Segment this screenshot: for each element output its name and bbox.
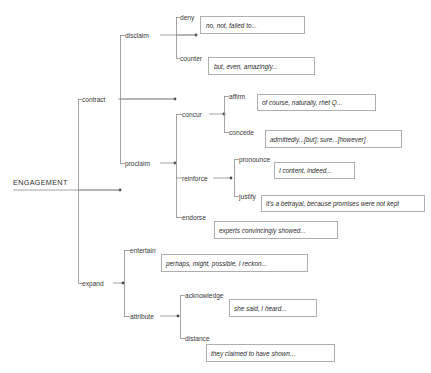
bracket-proclaim [176, 114, 182, 217]
example-box-concede: admittedly...[but]; sure...[however] [265, 130, 401, 147]
example-text-acknowledge: she said, I heard... [234, 305, 287, 312]
example-text-distance: they claimed to have shown... [211, 350, 295, 358]
example-text-concede: admittedly...[but]; sure...[however] [270, 136, 366, 144]
node-label-justify: justify [238, 193, 257, 201]
example-box-pronounce: I content, indeed... [274, 162, 354, 178]
node-label-counter: counter [180, 55, 203, 62]
example-box-deny: no, not, failed to... [200, 16, 304, 33]
node-label-entertain: entertain [130, 247, 156, 254]
example-box-entertain: perhaps, might, possible, I reckon... [161, 254, 307, 271]
node-label-disclaim: disclaim [125, 32, 149, 39]
node-label-pronounce: pronounce [239, 156, 270, 164]
example-box-counter: but, even, amazingly... [208, 57, 314, 74]
example-text-entertain: perhaps, might, possible, I reckon... [165, 260, 267, 268]
node-label-attribute: attribute [130, 313, 154, 320]
node-label-concur: concur [182, 111, 203, 118]
junction-dot-reinforce [230, 177, 233, 180]
bracket-disclaim [176, 17, 180, 58]
node-label-concede: concede [229, 129, 254, 136]
example-box-justify: it's a betrayal, because promises were n… [261, 195, 424, 211]
node-label-expand: expand [82, 280, 104, 288]
node-label-distance: distance [185, 335, 210, 342]
bracket-root [78, 99, 82, 283]
node-label-reinforce: reinforce [182, 175, 208, 182]
example-box-affirm: of course, naturally, rhet Q... [257, 94, 375, 110]
example-text-deny: no, not, failed to... [206, 22, 257, 29]
root-label-engagement: ENGAGEMENT [13, 178, 68, 187]
example-box-distance: they claimed to have shown... [206, 344, 334, 361]
example-text-counter: but, even, amazingly... [214, 63, 277, 71]
node-label-acknowledge: acknowledge [185, 292, 224, 300]
example-box-endorse: experts convincingly showed... [214, 221, 337, 238]
junction-dot-attribute [177, 315, 180, 318]
example-text-affirm: of course, naturally, rhet Q... [262, 99, 342, 107]
node-label-affirm: affirm [229, 93, 246, 100]
bracket-reinforce [234, 159, 239, 196]
node-label-proclaim: proclaim [125, 160, 150, 168]
node-label-contract: contract [82, 96, 106, 103]
example-text-endorse: experts convincingly showed... [219, 227, 306, 235]
example-text-justify: it's a betrayal, because promises were n… [266, 200, 399, 208]
bracket-attribute [180, 295, 185, 338]
bracket-expand [124, 250, 130, 316]
example-box-acknowledge: she said, I heard... [229, 299, 316, 316]
node-label-deny: deny [180, 14, 195, 22]
example-text-pronounce: I content, indeed... [279, 167, 332, 174]
node-label-endorse: endorse [182, 214, 206, 221]
engagement-taxonomy-diagram: ENGAGEMENT contract disclaim deny counte… [0, 0, 431, 373]
